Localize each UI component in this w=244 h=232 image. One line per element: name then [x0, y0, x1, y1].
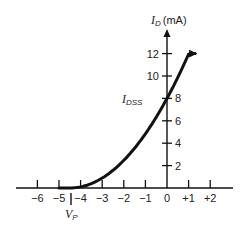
- x-tick-label: +2: [204, 192, 217, 204]
- y-tick-label: 6: [175, 115, 181, 127]
- x-tick-label: 0: [164, 192, 170, 204]
- y-tick-label: 10: [147, 70, 159, 82]
- x-tick-label: −5: [53, 192, 66, 204]
- x-tick-label: +1: [182, 192, 195, 204]
- y-tick-label: 2: [175, 160, 181, 172]
- x-tick-label: −2: [118, 192, 131, 204]
- y-tick-label: 12: [147, 48, 159, 60]
- transfer-characteristic-chart: −6−5−4−3−2−10+1+2 24681012 ID(mA) IDSS V…: [0, 0, 244, 232]
- x-tick-label: −1: [139, 192, 152, 204]
- x-tick-label: −3: [96, 192, 109, 204]
- y-axis-arrow-icon: [164, 29, 171, 37]
- y-tick-label: 4: [175, 137, 181, 149]
- x-axis-tick-labels: −6−5−4−3−2−10+1+2: [31, 192, 216, 204]
- x-tick-label: −4: [74, 192, 87, 204]
- y-axis-tick-labels: 24681012: [147, 48, 181, 172]
- x-tick-label: −6: [31, 192, 44, 204]
- y-axis-title: ID(mA): [150, 13, 187, 28]
- vp-label: VP: [65, 207, 78, 222]
- y-tick-label: 8: [175, 92, 181, 104]
- idss-label: IDSS: [121, 92, 143, 107]
